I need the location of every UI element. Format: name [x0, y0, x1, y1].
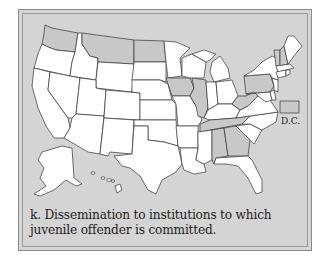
state-hi	[91, 172, 122, 193]
dc-label: D.C.	[281, 116, 300, 126]
state-wy	[96, 62, 134, 92]
state-mi	[210, 56, 230, 82]
state-pa	[244, 74, 274, 94]
figure-caption: k. Dissemination to institutions to whic…	[30, 208, 290, 238]
state-co	[104, 90, 140, 120]
state-fl	[214, 156, 262, 194]
state-nm	[100, 118, 134, 156]
state-ms	[196, 130, 212, 164]
caption-line-2: juvenile offender is committed.	[30, 223, 290, 238]
state-ar	[176, 126, 198, 148]
state-nd	[134, 40, 166, 62]
dc-box	[280, 101, 299, 113]
state-ak	[34, 146, 82, 196]
caption-line-1: k. Dissemination to institutions to whic…	[30, 208, 290, 223]
state-ri	[286, 70, 290, 76]
state-ks	[140, 100, 176, 120]
state-sd	[132, 62, 166, 82]
